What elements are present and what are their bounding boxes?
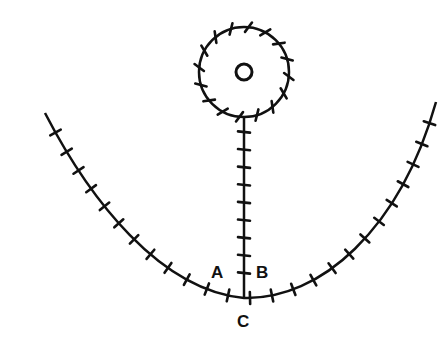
label-a: A (211, 264, 223, 281)
label-b: B (256, 264, 268, 281)
vertical-stem (238, 117, 250, 298)
diagram-canvas (0, 0, 444, 339)
label-c: C (237, 313, 249, 330)
center-small-circle (236, 64, 252, 80)
outer-ticked-circle (195, 23, 294, 122)
